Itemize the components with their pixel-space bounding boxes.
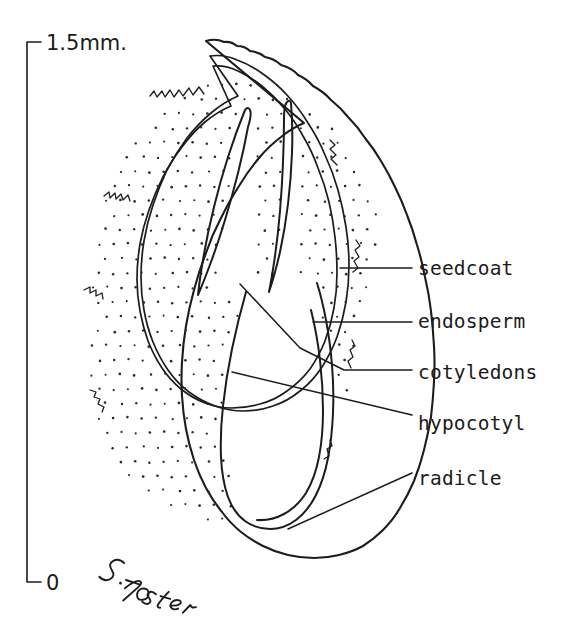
cotyledon-left (198, 108, 251, 295)
cotyledon-right (269, 101, 292, 292)
label-cotyledons[interactable]: cotyledons (418, 361, 537, 384)
seed-diagram: 1.5mm. 0 (0, 0, 568, 629)
leader-cotyledons (240, 284, 412, 370)
endosperm-boundary (137, 66, 337, 408)
endosperm-stipple (90, 83, 377, 521)
scale-top-label: 1.5mm. (46, 31, 127, 55)
scale-bottom-label: 0 (46, 571, 59, 595)
label-radicle[interactable]: radicle (418, 467, 502, 490)
label-group: seedcoat endosperm cotyledons hypocotyl … (418, 257, 537, 490)
artist-signature (94, 555, 201, 626)
label-hypocotyl[interactable]: hypocotyl (418, 412, 525, 435)
label-seedcoat[interactable]: seedcoat (418, 257, 514, 280)
leader-radicle (288, 473, 412, 529)
scale-bar (27, 42, 41, 582)
label-endosperm[interactable]: endosperm (418, 310, 525, 333)
hypocotyl-radicle-body (221, 283, 334, 529)
